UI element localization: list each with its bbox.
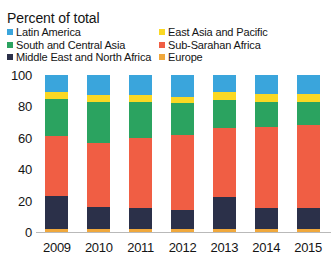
legend-label: Europe [168,51,203,64]
bar-segment[interactable] [87,143,110,207]
bar-segment[interactable] [213,197,236,228]
y-axis-tick-label: 40 [0,163,32,176]
bar-segment[interactable] [171,135,194,210]
x-axis-tick-label: 2015 [294,241,322,254]
bar-segment[interactable] [45,196,68,229]
bar-segment[interactable] [171,103,194,134]
bar-2010[interactable] [87,75,110,232]
legend-item-latin-america: Latin America [7,26,159,39]
x-axis-tick-label: 2012 [169,241,197,254]
legend-row: Middle East and North Africa Europe [7,51,329,64]
bar-segment[interactable] [129,138,152,209]
legend-label: South and Central Asia [16,39,125,52]
y-axis: 020406080100 [0,66,32,236]
chart-legend: Latin America East Asia and Pacific Sout… [7,26,329,64]
plot-wrapper: 020406080100 200920102011201220132014201… [0,66,333,262]
legend-item-east-asia-and-pacific: East Asia and Pacific [159,26,268,39]
y-axis-tick-label: 100 [0,69,32,82]
x-axis-baseline [36,232,331,233]
y-axis-tick-label: 60 [0,131,32,144]
bar-segment[interactable] [87,102,110,143]
x-axis-tick-label: 2013 [210,241,238,254]
legend-label: East Asia and Pacific [168,26,268,39]
bar-segment[interactable] [255,75,278,94]
bar-2009[interactable] [45,75,68,232]
legend-swatch-icon [159,54,165,60]
bar-segment[interactable] [255,127,278,209]
legend-item-south-and-central-asia: South and Central Asia [7,39,159,52]
bar-segment[interactable] [45,99,68,137]
bar-segment[interactable] [129,75,152,95]
bar-segment[interactable] [255,208,278,228]
legend-swatch-icon [159,29,165,35]
y-axis-tick-label: 20 [0,194,32,207]
bar-2011[interactable] [129,75,152,232]
bar-segment[interactable] [45,75,68,92]
bar-segment[interactable] [129,102,152,138]
bar-segment[interactable] [297,102,320,126]
legend-swatch-icon [7,42,13,48]
x-axis-tick-label: 2011 [127,241,154,254]
bar-2014[interactable] [255,75,278,232]
legend-label: Middle East and North Africa [16,51,151,64]
legend-row: South and Central Asia Sub-Sarahan Afric… [7,39,329,52]
bar-segment[interactable] [213,128,236,197]
legend-label: Sub-Sarahan Africa [168,39,261,52]
x-axis: 2009201020112012201320142015 [36,238,329,258]
bar-segment[interactable] [297,75,320,94]
legend-swatch-icon [7,54,13,60]
bar-segment[interactable] [297,125,320,208]
legend-label: Latin America [16,26,81,39]
bar-segment[interactable] [45,136,68,196]
legend-swatch-icon [159,42,165,48]
bar-segment[interactable] [213,92,236,100]
bar-segment[interactable] [129,208,152,228]
bar-2012[interactable] [171,75,194,232]
bar-segment[interactable] [87,207,110,229]
legend-item-middle-east-and-north-africa: Middle East and North Africa [7,51,159,64]
x-axis-tick-label: 2009 [43,241,71,254]
x-axis-tick-label: 2010 [85,241,113,254]
bar-segment[interactable] [297,94,320,102]
bar-segment[interactable] [87,75,110,95]
legend-swatch-icon [7,29,13,35]
bar-segment[interactable] [171,210,194,229]
legend-item-sub-sarahan-africa: Sub-Sarahan Africa [159,39,261,52]
legend-row: Latin America East Asia and Pacific [7,26,329,39]
chart-title: Percent of total [7,11,100,25]
bar-segment[interactable] [255,94,278,102]
bar-segment[interactable] [213,100,236,128]
bar-2013[interactable] [213,75,236,232]
plot-area [36,75,329,232]
bar-segment[interactable] [297,208,320,228]
bar-segment[interactable] [255,102,278,127]
legend-item-europe: Europe [159,51,203,64]
x-axis-tick-label: 2014 [252,241,280,254]
y-axis-tick-label: 0 [0,226,32,239]
bar-2015[interactable] [297,75,320,232]
bar-segment[interactable] [171,75,194,97]
bar-segment[interactable] [213,75,236,92]
stacked-bar-chart: Percent of total Latin America East Asia… [0,0,333,262]
y-axis-tick-label: 80 [0,100,32,113]
